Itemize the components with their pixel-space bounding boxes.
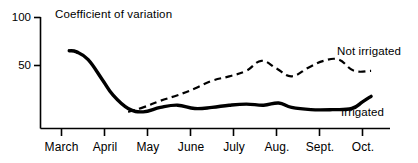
series-line-irrigated bbox=[69, 51, 371, 112]
chart-title: Coefficient of variation bbox=[55, 9, 172, 21]
chart-plot-area bbox=[0, 0, 418, 163]
coefficient-of-variation-chart: Coefficient of variation 100 50 March Ap… bbox=[0, 0, 418, 163]
series-label-not-irrigated: Not irrigated bbox=[337, 46, 401, 58]
x-axis-label-october: Oct. bbox=[332, 141, 394, 153]
y-axis-label-100: 100 bbox=[0, 12, 31, 24]
y-axis-label-50: 50 bbox=[0, 60, 31, 72]
series-label-irrigated: Irrigated bbox=[341, 107, 384, 119]
